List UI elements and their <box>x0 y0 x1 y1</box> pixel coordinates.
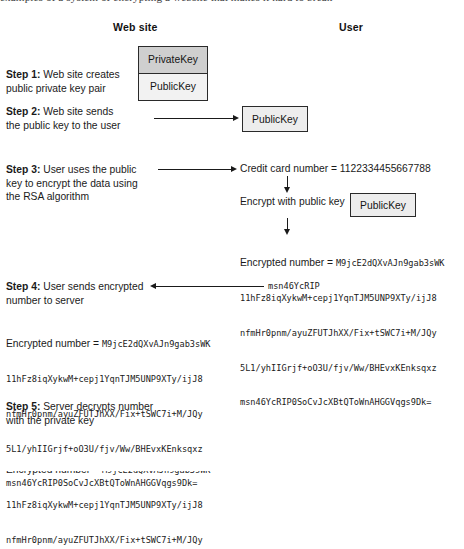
step-3-text-2: key to encrypt the data using <box>6 177 138 191</box>
step-5-label: Step 5: Server decrypts number with the … <box>6 400 153 427</box>
step-1-text-2: public private key pair <box>6 82 120 96</box>
step-2-arrow-head-icon <box>233 115 239 121</box>
step-1-line-1: Step 1: Web site creates <box>6 68 120 82</box>
down-arrow-head-icon-1 <box>284 187 290 193</box>
encrypt-with-public-key-text: Encrypt with public key <box>240 196 345 207</box>
step-2-arrow-line <box>154 118 234 119</box>
page-bottom-clip <box>0 465 464 471</box>
encrypted-number-step3-line-4: 5L1/yhIIGrjf+oO3U/fjv/Ww/BHEvxKEnksqxz <box>240 363 445 375</box>
encrypted-number-step4-line-1: Encrypted number = M9jcE2dQXvAJn9gab3sWK <box>6 338 211 351</box>
encrypted-number-step5-line-3: nfmHr0pnm/ayuZFUTJhXX/Fix+tSWC7i+M/JQy <box>6 535 211 547</box>
public-key-user-label: PublicKey <box>252 114 298 125</box>
step-1-label: Step 1: Web site creates public private … <box>6 68 120 95</box>
step-3-text-1: User uses the public <box>43 164 136 175</box>
step-3-text-3: the RSA algorithm <box>6 190 138 204</box>
step-4-text-1: User sends encrypted <box>43 281 143 292</box>
step-3-line-1: Step 3: User uses the public <box>6 163 138 177</box>
step-5-number: Step 5: <box>6 401 40 412</box>
public-key-encrypt-label: PublicKey <box>360 200 406 211</box>
step-4-line-1: Step 4: User sends encrypted <box>6 280 143 294</box>
encrypted-number-step3-label: Encrypted number = <box>240 257 336 268</box>
column-header-user: User <box>339 21 363 33</box>
step-3-label: Step 3: User uses the public key to encr… <box>6 163 138 204</box>
step-4-label: Step 4: User sends encrypted number to s… <box>6 280 143 307</box>
step-2-text-2: the public key to the user <box>6 119 120 133</box>
encrypted-number-step3-line-5: msn46YcRIP0SoCvJcXBtQToWnAHGGVqgs9Dk= <box>240 397 445 409</box>
step-2-line-1: Step 2: Web site sends <box>6 105 120 119</box>
encrypted-number-step5-line-2: 11hFz8iqXykwM+cepj1YqnTJM5UNP9XTy/ijJ8 <box>6 500 211 512</box>
step-5-text-1: Server decrypts number <box>43 401 153 412</box>
step-5-line-1: Step 5: Server decrypts number <box>6 400 153 414</box>
step-4-text-2: number to server <box>6 294 143 308</box>
step-4-arrow-head-icon <box>150 283 156 289</box>
step-3-number: Step 3: <box>6 164 40 175</box>
public-key-box: PublicKey <box>139 74 207 101</box>
step-4-number: Step 4: <box>6 281 40 292</box>
step-5-text-2: with the private key <box>6 414 153 428</box>
encrypted-number-fragment: msn46YcRIP <box>268 281 320 293</box>
step-2-text-1: Web site sends <box>43 106 113 117</box>
private-key-label: PrivateKey <box>148 54 198 65</box>
encrypted-number-step3-line-2: 11hFz8iqXykwM+cepj1YqnTJM5UNP9XTy/ijJ8 <box>240 293 445 305</box>
step-2-number: Step 2: <box>6 106 40 117</box>
encrypted-number-block-step-5: Encrypted number = M9jcE2dQXvAJn9gab3sWK… <box>6 441 211 549</box>
public-key-box-user: PublicKey <box>242 106 308 132</box>
encrypted-number-step3-line-3: nfmHr0pnm/ayuZFUTJhXX/Fix+tSWC7i+M/JQy <box>240 328 445 340</box>
column-header-web-site: Web site <box>113 21 158 33</box>
encrypted-number-step3-part-1: M9jcE2dQXvAJn9gab3sWK <box>336 258 445 268</box>
key-pair-box: PrivateKey PublicKey <box>138 46 208 101</box>
step-4-arrow-line <box>156 286 264 287</box>
encrypted-number-step4-part-1: M9jcE2dQXvAJn9gab3sWK <box>102 339 211 349</box>
encrypted-number-step4-label: Encrypted number = <box>6 338 102 349</box>
encrypted-number-step4-line-2: 11hFz8iqXykwM+cepj1YqnTJM5UNP9XTy/ijJ8 <box>6 374 211 386</box>
running-text-above-figure: examples of a system of encrypting a web… <box>0 0 464 5</box>
credit-card-number-text: Credit card number = 1122334455667788 <box>240 163 431 174</box>
encrypted-number-step3-line-1: Encrypted number = M9jcE2dQXvAJn9gab3sWK <box>240 257 445 270</box>
step-1-number: Step 1: <box>6 69 40 80</box>
running-text-line: examples of a system of encrypting a web… <box>0 0 464 3</box>
step-1-text-1: Web site creates <box>43 69 120 80</box>
private-key-box: PrivateKey <box>139 47 207 74</box>
public-key-box-encrypt: PublicKey <box>350 193 416 217</box>
step-2-label: Step 2: Web site sends the public key to… <box>6 105 120 132</box>
encrypted-number-block-step-3: Encrypted number = M9jcE2dQXvAJn9gab3sWK… <box>240 234 445 432</box>
public-key-label: PublicKey <box>150 81 196 92</box>
step-3-arrow-head-icon <box>231 166 237 172</box>
step-3-arrow-line <box>158 169 232 170</box>
